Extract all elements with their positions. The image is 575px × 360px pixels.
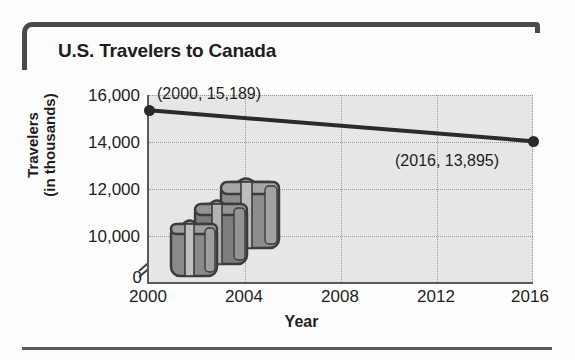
data-series-line [149, 95, 533, 282]
y-tick-label: 10,000 [66, 227, 140, 247]
y-axis-label-line1: Travelers [24, 65, 41, 225]
bottom-divider [22, 347, 552, 350]
bracket-hook [535, 22, 540, 33]
x-tick-label: 2008 [321, 287, 359, 307]
x-tick-label: 2004 [225, 287, 263, 307]
x-axis-label-text: Year [285, 313, 319, 331]
x-tick-label: 2000 [129, 287, 167, 307]
y-tick-label: 12,000 [66, 180, 140, 200]
y-tick-label: 16,000 [66, 86, 140, 106]
data-point-label: (2016, 13,895) [395, 152, 499, 170]
data-point-marker[interactable] [528, 136, 539, 147]
x-axis-label: Year [0, 313, 575, 331]
data-point-label: (2000, 15,189) [157, 85, 261, 103]
x-tick-label: 2012 [417, 287, 455, 307]
y-tick-label: 14,000 [66, 133, 140, 153]
chart-figure: U.S. Travelers to Canada Travelers (in t… [0, 0, 575, 360]
x-tick-label: 2016 [511, 287, 549, 307]
data-point-marker[interactable] [144, 105, 155, 116]
plot-area: (2000, 15,189) (2016, 13,895) [147, 95, 533, 284]
y-axis-label-line2: (in thousands) [41, 65, 58, 225]
y-axis-label: Travelers (in thousands) [24, 65, 58, 225]
